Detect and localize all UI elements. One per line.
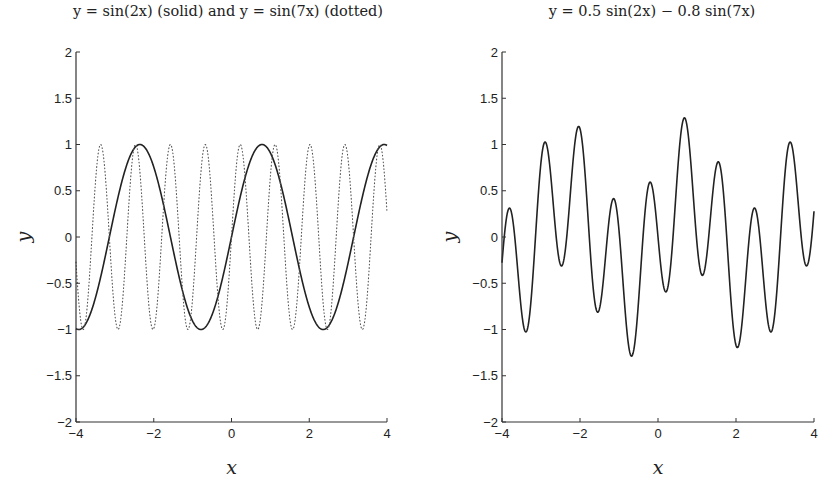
x-tick-label: 4 [810, 426, 817, 441]
x-tick-label: 2 [306, 426, 313, 441]
y-tick-label: 2 [491, 45, 498, 60]
x-axis-label: x [226, 456, 237, 478]
y-tick-label: −0.5 [472, 276, 498, 291]
y-tick-label: 2 [65, 45, 72, 60]
x-tick-label: −4 [495, 426, 510, 441]
y-tick-label: 0.5 [480, 183, 498, 198]
x-tick-label: −2 [146, 426, 161, 441]
right-chart: y = 0.5 sin(2x) − 0.8 sin(7x)−2−1.5−1−0.… [438, 3, 818, 478]
y-tick-label: −1.5 [46, 368, 72, 383]
x-tick-label: 0 [228, 426, 235, 441]
left-chart: y = sin(2x) (solid) and y = sin(7x) (dot… [12, 3, 391, 478]
y-tick-label: 0.5 [54, 183, 72, 198]
x-tick-label: 0 [654, 426, 661, 441]
x-axis-label: x [653, 456, 664, 478]
y-tick-label: −1 [483, 322, 498, 337]
y-tick-label: 1 [65, 137, 72, 152]
y-tick-label: 1.5 [54, 91, 72, 106]
y-tick-label: 1 [491, 137, 498, 152]
y-axis-label: y [438, 231, 460, 243]
x-tick-label: 2 [732, 426, 739, 441]
chart-title: y = 0.5 sin(2x) − 0.8 sin(7x) [548, 3, 756, 19]
solid-series-line [502, 118, 814, 356]
x-tick-label: 4 [383, 426, 390, 441]
y-tick-label: −1.5 [472, 368, 498, 383]
y-axis-label: y [12, 231, 34, 243]
y-tick-label: 1.5 [480, 91, 498, 106]
y-tick-label: 0 [65, 230, 72, 245]
y-tick-label: −1 [57, 322, 72, 337]
y-tick-label: 0 [491, 230, 498, 245]
chart-title: y = sin(2x) (solid) and y = sin(7x) (dot… [72, 3, 383, 19]
dotted-series-line [76, 145, 387, 330]
x-tick-label: −2 [573, 426, 588, 441]
y-tick-label: −0.5 [46, 276, 72, 291]
x-tick-label: −4 [69, 426, 84, 441]
figure: y = sin(2x) (solid) and y = sin(7x) (dot… [0, 0, 830, 491]
